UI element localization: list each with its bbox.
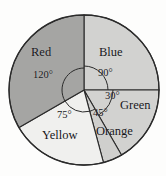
pie-angle-label-yellow: 75° — [57, 110, 72, 121]
pie-label-green: Green — [120, 99, 151, 112]
pie-label-blue: Blue — [99, 46, 123, 59]
pie-chart-graphic — [0, 0, 166, 176]
pie-angle-label-orange: 45° — [93, 108, 108, 119]
pie-label-red: Red — [31, 46, 51, 59]
pie-label-orange: Orange — [96, 125, 133, 138]
pie-label-yellow: Yellow — [42, 129, 78, 142]
pie-slices — [9, 15, 159, 165]
pie-angle-label-green: 30° — [105, 91, 120, 102]
pie-chart-figure: Red Blue Green Orange Yellow 120° 90° 30… — [0, 0, 166, 176]
pie-angle-label-red: 120° — [33, 70, 53, 81]
pie-angle-label-blue: 90° — [98, 68, 113, 79]
